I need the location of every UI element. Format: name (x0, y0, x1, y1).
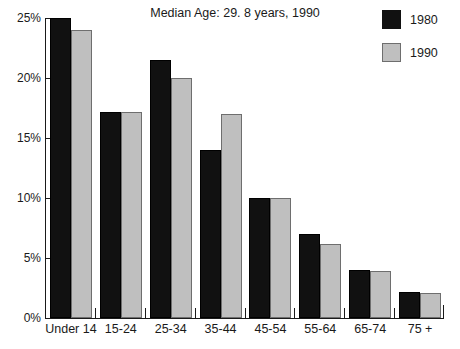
x-axis-tick-label: 15-24 (105, 322, 137, 336)
bar-1990-25-34 (171, 78, 192, 318)
x-axis-tick-label: 55-64 (304, 322, 336, 336)
bar-1990-35-44 (221, 114, 242, 318)
x-axis-line (45, 318, 444, 319)
y-axis-tick-label: 10% (1, 191, 41, 205)
x-axis-tick-label: 65-74 (354, 322, 386, 336)
y-axis-tick-label: 5% (1, 251, 41, 265)
bar-1990-55-64 (320, 244, 341, 318)
y-axis-tick-label: 25% (1, 11, 41, 25)
bar-1990-15-24 (121, 112, 142, 318)
bar-chart: Median Age: 29. 8 years, 1990 1980 1990 … (0, 0, 460, 349)
bar-1980-Under-14 (50, 18, 71, 318)
bar-1980-55-64 (299, 234, 320, 318)
bar-1990-75-+ (420, 293, 441, 318)
bars-layer (45, 18, 444, 318)
bar-1980-25-34 (150, 60, 171, 318)
bar-1990-45-54 (270, 198, 291, 318)
bar-1980-45-54 (249, 198, 270, 318)
x-axis-tick-label: 25-34 (155, 322, 187, 336)
bar-1980-35-44 (200, 150, 221, 318)
x-axis-tick-label: Under 14 (45, 322, 96, 336)
x-axis-tick-label: 75 + (408, 322, 433, 336)
bar-1980-65-74 (349, 270, 370, 318)
x-axis-tick-label: 35-44 (205, 322, 237, 336)
y-axis-tick-label: 20% (1, 71, 41, 85)
x-axis-tick-label: 45-54 (254, 322, 286, 336)
y-axis-tick-label: 0% (1, 311, 41, 325)
y-axis-tick-label: 15% (1, 131, 41, 145)
bar-1980-75-+ (399, 292, 420, 318)
y-axis-labels: 0%5%10%15%20%25% (0, 0, 41, 349)
bar-1990-Under-14 (71, 30, 92, 318)
bar-1990-65-74 (370, 271, 391, 318)
bar-1980-15-24 (100, 112, 121, 318)
